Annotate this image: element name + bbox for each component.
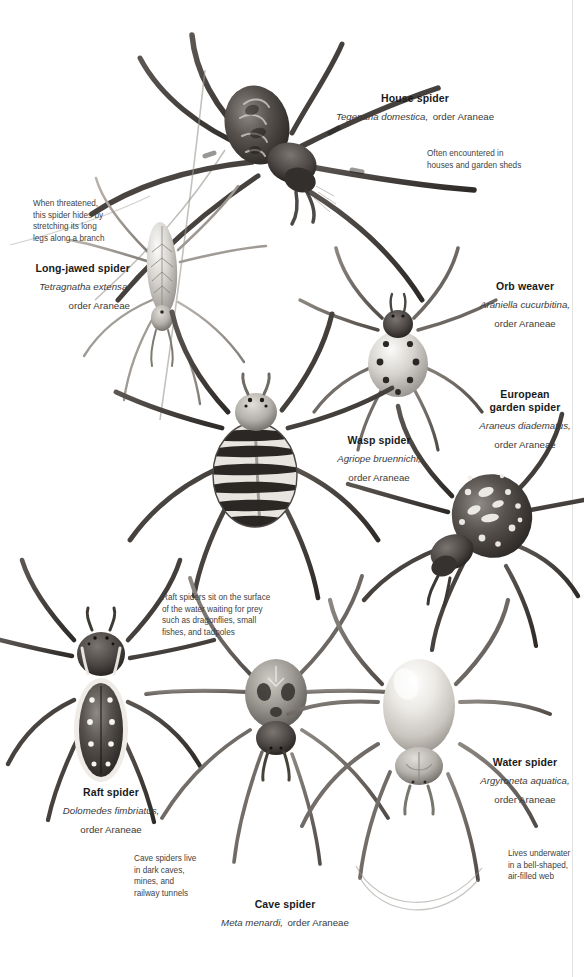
orb-weaver-common-name: Orb weaver: [466, 280, 584, 293]
house-spider-common-name: House spider: [300, 92, 530, 105]
cave-spider-order: order Araneae: [287, 917, 348, 928]
note-raft-spider: Raft spiders sit on the surface of the w…: [162, 592, 322, 639]
caption-european-garden-spider: European garden spider Araneus diadematu…: [466, 388, 584, 453]
wasp-spider-latin-name: Agriope bruennichi,: [337, 453, 420, 464]
caption-cave-spider: Cave spider Meta menardi, order Araneae: [170, 898, 400, 930]
orb-weaver-latin-name: Araniella cucurbitina,: [480, 299, 570, 310]
caption-raft-spider: Raft spider Dolomedes fimbriatus, order …: [52, 786, 170, 838]
raft-spider-common-name: Raft spider: [52, 786, 170, 799]
raft-spider-order: order Araneae: [80, 824, 141, 835]
water-spider-latin-name: Argyroneta aquatica,: [480, 775, 569, 786]
caption-long-jawed-spider: Long-jawed spider Tetragnatha extensa, o…: [0, 262, 130, 314]
raft-spider-latin-name: Dolomedes fimbriatus,: [63, 805, 159, 816]
note-long-jawed-spider: When threatened, this spider hides by st…: [33, 198, 131, 245]
note-water-spider: Lives underwater in a bell-shaped, air-f…: [508, 848, 582, 883]
water-spider-common-name: Water spider: [466, 756, 584, 769]
european-garden-spider-latin-name: Araneus diadematus,: [479, 420, 571, 431]
long-jawed-spider-latin-name: Tetragnatha extensa,: [39, 281, 130, 292]
long-jawed-spider-order: order Araneae: [69, 300, 130, 311]
caption-orb-weaver: Orb weaver Araniella cucurbitina, order …: [466, 280, 584, 332]
caption-house-spider: House spider Tegenaria domestica, order …: [300, 92, 530, 124]
long-jawed-spider-common-name: Long-jawed spider: [0, 262, 130, 275]
house-spider-latin-name: Tegenaria domestica,: [336, 111, 428, 122]
house-spider-illustration: [10, 35, 474, 300]
orb-weaver-order: order Araneae: [494, 318, 555, 329]
house-spider-order: order Araneae: [433, 111, 494, 122]
european-garden-spider-common-name: European garden spider: [466, 388, 584, 414]
cave-spider-common-name: Cave spider: [170, 898, 400, 911]
illustration-page: House spider Tegenaria domestica, order …: [0, 0, 584, 977]
wasp-spider-common-name: Wasp spider: [316, 434, 442, 447]
caption-wasp-spider: Wasp spider Agriope bruennichi, order Ar…: [316, 434, 442, 486]
note-cave-spider: Cave spiders live in dark caves, mines, …: [134, 853, 224, 900]
wasp-spider-order: order Araneae: [348, 472, 409, 483]
water-spider-order: order Araneae: [494, 794, 555, 805]
european-garden-spider-order: order Araneae: [494, 439, 555, 450]
cave-spider-latin-name: Meta menardi,: [221, 917, 283, 928]
caption-water-spider: Water spider Argyroneta aquatica, order …: [466, 756, 584, 808]
note-house-spider: Often encountered in houses and garden s…: [427, 148, 547, 171]
